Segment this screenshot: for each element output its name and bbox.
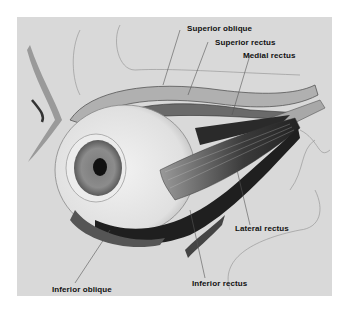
label-inferior-rectus: Inferior rectus [192, 279, 247, 288]
label-superior-oblique: Superior oblique [187, 24, 252, 33]
label-medial-rectus: Medial rectus [243, 51, 295, 60]
diagram-figure: Superior oblique Superior rectus Medial … [17, 17, 332, 296]
orbit-rim [27, 45, 62, 162]
label-inferior-oblique: Inferior oblique [52, 285, 112, 294]
pupil [93, 158, 107, 176]
label-lateral-rectus: Lateral rectus [235, 224, 289, 233]
label-superior-rectus: Superior rectus [215, 38, 276, 47]
